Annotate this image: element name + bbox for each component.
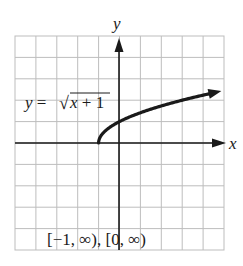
svg-text:y =: y = <box>23 93 46 112</box>
domain-range-label: [−1, ∞), [0, ∞) <box>47 230 146 249</box>
y-axis-label: y <box>111 14 121 33</box>
equation-label: y = √ x + 1 <box>23 93 110 113</box>
svg-text:x + 1: x + 1 <box>69 93 104 112</box>
y-axis-arrow-icon <box>115 38 124 52</box>
function-graph: x y y = √ x + 1 [−1, ∞), [0, ∞) <box>0 0 243 266</box>
curve-arrow-icon <box>208 89 222 99</box>
svg-text:√: √ <box>59 93 69 113</box>
x-axis-label: x <box>228 134 237 153</box>
